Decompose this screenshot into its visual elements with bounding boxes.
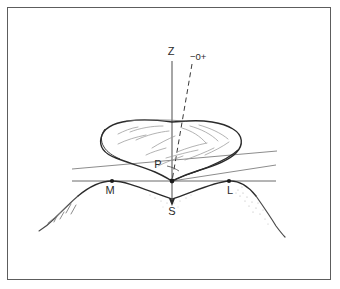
marker-point-s bbox=[170, 179, 175, 184]
fetal-head-left-rim bbox=[101, 129, 120, 159]
z-axis-group bbox=[169, 61, 176, 206]
p-leader-line bbox=[167, 166, 179, 171]
label-z-axis: Z bbox=[168, 45, 175, 57]
pelvic-outlet-curve-group bbox=[39, 181, 285, 237]
anatomical-diagram: Z −0+ P M S L bbox=[0, 0, 340, 289]
label-point-l: L bbox=[227, 184, 233, 196]
marker-point-l bbox=[227, 179, 231, 183]
label-point-s: S bbox=[168, 205, 175, 217]
fetal-head-outline bbox=[101, 120, 242, 181]
pelvic-left-tail bbox=[39, 196, 78, 231]
fetal-head-outline-group bbox=[101, 120, 242, 181]
label-point-p: P bbox=[154, 158, 161, 170]
oblique-line-right bbox=[172, 165, 276, 181]
pelvic-right-tail bbox=[256, 196, 285, 237]
fetal-head-shading-strokes bbox=[118, 125, 229, 166]
marker-point-m bbox=[110, 179, 114, 183]
label-point-m: M bbox=[105, 184, 114, 196]
label-station-axis: −0+ bbox=[190, 51, 207, 62]
pelvic-left-tail-hatching bbox=[54, 204, 76, 222]
